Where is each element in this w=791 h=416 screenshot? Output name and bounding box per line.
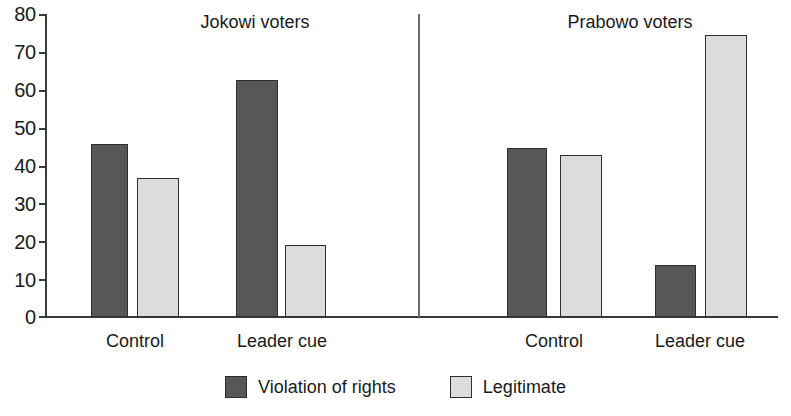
chart-legend: Violation of rights Legitimate [0,376,791,398]
x-label-prabowo-leadercue: Leader cue [640,330,760,352]
bar-prabowo-control-violation[interactable] [507,148,547,317]
x-label-jokowi-control: Control [75,330,195,352]
x-label-jokowi-leadercue: Leader cue [222,330,342,352]
legend-item-violation[interactable]: Violation of rights [225,376,396,398]
bar-jokowi-control-legitimate[interactable] [137,178,179,317]
bar-jokowi-leadercue-legitimate[interactable] [285,245,326,317]
legend-label-legitimate: Legitimate [483,376,566,398]
legend-swatch-violation-icon [225,376,247,398]
bar-prabowo-control-legitimate[interactable] [560,155,602,317]
legend-swatch-legitimate-icon [450,376,472,398]
x-label-prabowo-control: Control [494,330,614,352]
bar-jokowi-leadercue-violation[interactable] [236,80,278,317]
bar-prabowo-leadercue-legitimate[interactable] [705,35,747,317]
bar-chart-figure: 80 70 60 50 40 30 20 10 0 [0,0,791,416]
plot-area [0,0,791,416]
legend-item-legitimate[interactable]: Legitimate [450,376,566,398]
bar-jokowi-control-violation[interactable] [91,144,128,317]
legend-label-violation: Violation of rights [258,376,396,398]
bar-prabowo-leadercue-violation[interactable] [655,265,696,317]
